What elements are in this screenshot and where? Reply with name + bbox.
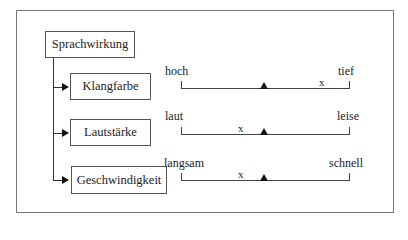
tree-connector-vertical (53, 58, 54, 180)
root-label: Sprachwirkung (52, 37, 128, 52)
arrow-right-icon (62, 176, 69, 184)
pole-right-schnell: schnell (329, 157, 363, 169)
midpoint-triangle-icon (260, 174, 268, 181)
item-label: Geschwindigkeit (77, 173, 162, 188)
pole-right-tief: tief (338, 65, 354, 77)
rating-marker: x (319, 77, 325, 88)
pole-left-hoch: hoch (165, 65, 188, 77)
rating-marker: x (238, 123, 244, 134)
item-label: Klangfarbe (82, 79, 138, 94)
item-label: Lautstärke (84, 125, 137, 140)
pole-left-laut: laut (165, 110, 183, 122)
rating-marker: x (238, 169, 244, 180)
box-geschwindigkeit: Geschwindigkeit (71, 166, 167, 194)
arrow-right-icon (62, 129, 69, 137)
midpoint-triangle-icon (260, 128, 268, 135)
root-box-sprachwirkung: Sprachwirkung (45, 31, 135, 58)
box-lautstaerke: Lautstärke (70, 119, 151, 146)
pole-right-leise: leise (337, 110, 359, 122)
box-klangfarbe: Klangfarbe (70, 73, 151, 100)
pole-left-langsam: langsam (164, 157, 204, 169)
midpoint-triangle-icon (260, 82, 268, 89)
arrow-right-icon (62, 83, 69, 91)
